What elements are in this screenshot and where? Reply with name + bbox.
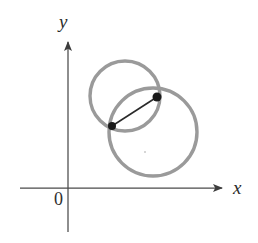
lower-intersection-point bbox=[108, 122, 116, 130]
figure-container: y x 0 bbox=[0, 0, 258, 243]
scan-speck-icon bbox=[144, 151, 146, 153]
y-axis-label: y bbox=[59, 12, 67, 31]
x-axis-label: x bbox=[233, 178, 241, 197]
upper-intersection-point bbox=[153, 93, 162, 102]
origin-label: 0 bbox=[54, 190, 63, 208]
diagram-canvas bbox=[0, 0, 258, 243]
